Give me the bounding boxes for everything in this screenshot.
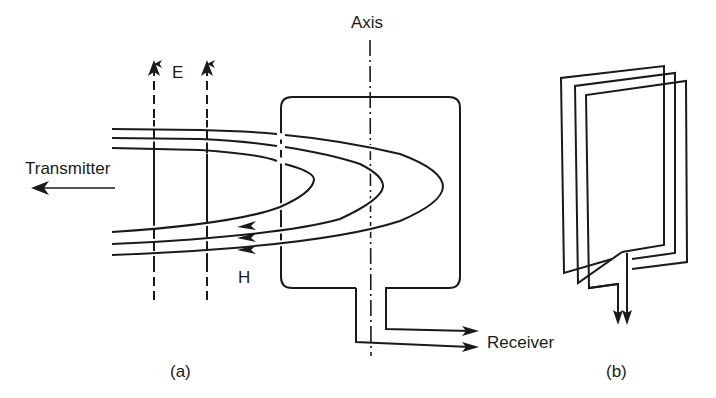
- loop-antenna-a: [281, 97, 470, 331]
- h-field-lines: [112, 120, 443, 270]
- panel-a-caption: (a): [170, 363, 191, 380]
- e-field-label: E: [172, 64, 183, 81]
- e-field-lines: [148, 60, 213, 300]
- h-field-line-inner: [112, 148, 314, 232]
- loop-antenna-a-lead: [356, 288, 470, 347]
- axis-label: Axis: [351, 14, 383, 31]
- h-field-label: H: [238, 269, 250, 286]
- axis-line: [370, 40, 371, 356]
- transmitter-label: Transmitter: [25, 160, 110, 177]
- loop-b-turn-3: [586, 81, 687, 288]
- multi-turn-loop-b: [561, 66, 687, 325]
- panel-b-caption: (b): [606, 363, 627, 380]
- h-arrowhead-1: [237, 221, 256, 230]
- loop-antenna-diagram: [0, 0, 716, 398]
- receiver-label: Receiver: [487, 334, 554, 351]
